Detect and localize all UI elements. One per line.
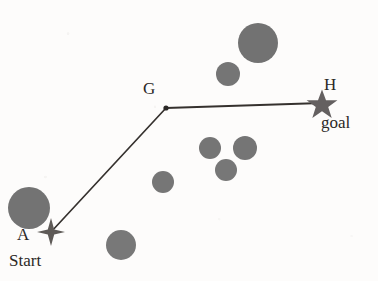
path-segment-a-to-g (51, 108, 166, 232)
obstacle-circle (106, 230, 136, 260)
label-middle-node: G (143, 80, 155, 97)
label-start-caption: Start (9, 252, 41, 269)
obstacle-circle (238, 23, 278, 63)
obstacle-circle (8, 187, 50, 229)
label-start-node: A (17, 226, 29, 243)
label-goal-caption: goal (321, 114, 350, 131)
path-planning-figure: A Start G H goal (0, 0, 378, 281)
obstacle-circle (216, 62, 240, 86)
obstacle-circle (199, 137, 221, 159)
path-layer (51, 103, 322, 232)
waypoint-dot-g (163, 105, 168, 110)
path-segment-g-to-h (166, 103, 322, 108)
diagram-canvas (0, 0, 378, 281)
waypoint-layer (37, 90, 337, 247)
obstacle-circle (152, 171, 174, 193)
obstacle-layer (8, 23, 278, 260)
obstacle-circle (233, 136, 257, 160)
obstacle-circle (215, 159, 237, 181)
label-goal-node: H (324, 76, 336, 93)
